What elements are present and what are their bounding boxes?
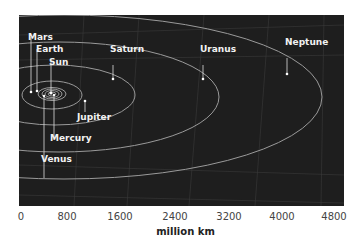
solar-system-diagram: Mars Earth Sun Saturn Uranus Neptune Jup… (19, 15, 344, 206)
planet-label-earth: Earth (36, 44, 63, 54)
planet-label-mars: Mars (28, 32, 53, 42)
x-tick-2400: 2400 (162, 211, 187, 222)
x-axis-label: million km (0, 226, 361, 237)
planet-label-jupiter: Jupiter (77, 112, 111, 122)
x-tick-1600: 1600 (107, 211, 132, 222)
planet-label-uranus: Uranus (200, 44, 236, 54)
planet-label-saturn: Saturn (110, 44, 144, 54)
x-tick-0: 0 (18, 211, 24, 222)
x-tick-3200: 3200 (216, 211, 241, 222)
x-tick-4800: 4800 (321, 211, 346, 222)
x-tick-800: 800 (57, 211, 76, 222)
x-tick-4000: 4000 (269, 211, 294, 222)
planet-label-neptune: Neptune (285, 37, 328, 47)
planet-label-sun: Sun (49, 57, 68, 67)
planet-label-venus: Venus (41, 154, 72, 164)
planet-label-mercury: Mercury (50, 133, 92, 143)
